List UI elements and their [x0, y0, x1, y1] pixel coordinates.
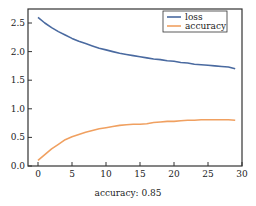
legend-label-accuracy: accuracy — [185, 21, 227, 31]
x-tick-label: 15 — [134, 169, 146, 179]
y-tick-label: 1.0 — [11, 104, 26, 114]
caption-text: accuracy: 0.85 — [95, 188, 162, 198]
x-tick-label: 10 — [100, 169, 112, 179]
x-axis: 051015202530 — [35, 162, 248, 179]
x-tick-label: 20 — [168, 169, 180, 179]
series-line-accuracy — [38, 120, 235, 161]
line-chart: 0.00.51.01.52.02.5 051015202530 lossaccu… — [0, 0, 256, 206]
x-tick-label: 30 — [236, 169, 248, 179]
legend: lossaccuracy — [163, 11, 227, 32]
x-tick-label: 5 — [69, 169, 75, 179]
y-tick-label: 2.0 — [11, 47, 26, 57]
y-tick-label: 0.0 — [11, 161, 26, 171]
series-layer — [38, 17, 235, 160]
y-tick-label: 1.5 — [11, 75, 26, 85]
y-axis: 0.00.51.01.52.02.5 — [11, 18, 32, 171]
x-tick-label: 25 — [202, 169, 214, 179]
y-tick-label: 2.5 — [11, 18, 26, 28]
y-tick-label: 0.5 — [11, 132, 26, 142]
x-tick-label: 0 — [35, 169, 41, 179]
